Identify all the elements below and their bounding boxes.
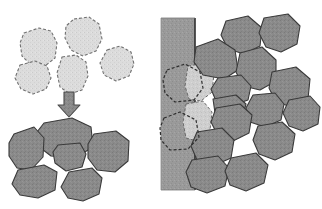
dark-grain — [88, 131, 129, 172]
packed-grain — [186, 156, 229, 193]
grain-microstructure-figure — [0, 0, 322, 209]
packed-grain — [283, 96, 320, 131]
figure-root: Grain rearrangement and wall-adjacent pa… — [0, 0, 322, 209]
light-grain — [20, 28, 57, 66]
